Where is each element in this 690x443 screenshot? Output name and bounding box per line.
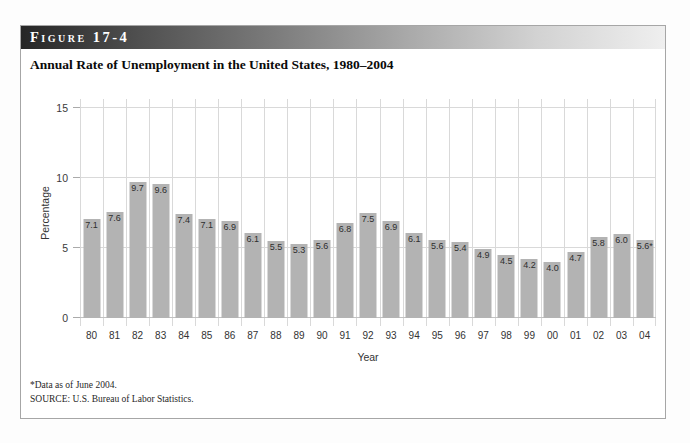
bar-value-label: 6.1 [408,234,421,244]
bar-slot-03: 6.0 [610,108,633,318]
x-tick-label: 80 [80,330,103,341]
x-tick-label: 91 [334,330,357,341]
bar-81: 7.6 [106,212,123,318]
y-tick-label: 10 [32,172,68,184]
bar-03: 6.0 [613,234,630,318]
x-tick-label: 98 [495,330,518,341]
bar-value-label: 5.6 [431,241,444,251]
bar-value-label: 5.3 [293,245,306,255]
x-tick-label: 81 [103,330,126,341]
x-tick-label: 93 [380,330,403,341]
bar-96: 5.4 [452,242,469,318]
figure-header-bar: Figure 17-4 [21,26,665,49]
x-tick-label: 87 [241,330,264,341]
figure-number: Figure 17-4 [30,29,129,46]
bar-value-label: 7.1 [85,220,98,230]
bar-97: 4.9 [475,249,492,318]
x-axis-title: Year [80,351,656,363]
bar-86: 6.9 [221,221,238,318]
y-tick-mark [73,107,80,108]
bar-slot-95: 5.6 [426,108,449,318]
bar-value-label: 5.5 [270,242,283,252]
y-tick-label: 0 [32,312,68,324]
unemployment-bar-chart: Percentage 0510157.17.69.79.67.47.16.96.… [80,108,656,378]
y-tick-label: 5 [32,242,68,254]
bar-01: 4.7 [567,252,584,318]
bar-91: 6.8 [337,223,354,318]
figure-panel: Figure 17-4 Annual Rate of Unemployment … [20,25,666,419]
bar-value-label: 4.7 [569,253,582,263]
bars-row: 7.17.69.79.67.47.16.96.15.55.35.66.87.56… [80,108,656,318]
x-tick-label: 02 [587,330,610,341]
x-tick-label: 96 [449,330,472,341]
x-tick-label: 92 [357,330,380,341]
bar-slot-82: 9.7 [126,108,149,318]
bar-02: 5.8 [590,237,607,318]
bar-94: 6.1 [406,233,423,318]
bar-slot-84: 7.4 [172,108,195,318]
bar-slot-83: 9.6 [149,108,172,318]
bar-value-label: 6.1 [247,234,260,244]
bar-slot-93: 6.9 [380,108,403,318]
x-tick-label: 89 [287,330,310,341]
bar-value-label: 7.1 [200,220,213,230]
bar-slot-94: 6.1 [403,108,426,318]
bar-87: 6.1 [244,233,261,318]
x-tick-label: 04 [633,330,656,341]
x-tick-label: 82 [126,330,149,341]
bar-04: 5.6* [636,240,653,318]
bar-slot-89: 5.3 [287,108,310,318]
plot-area: 0510157.17.69.79.67.47.16.96.15.55.35.66… [80,108,656,318]
bar-83: 9.6 [152,184,169,318]
x-tick-label: 97 [472,330,495,341]
y-axis-title: Percentage [39,108,53,318]
bar-82: 9.7 [129,182,146,318]
bar-value-label: 5.6* [637,241,653,251]
bar-89: 5.3 [290,244,307,318]
bar-value-label: 5.4 [454,243,467,253]
bar-value-label: 5.6 [316,241,329,251]
bar-value-label: 6.9 [224,222,237,232]
x-tick-label: 86 [218,330,241,341]
y-tick-mark [73,177,80,178]
bar-slot-87: 6.1 [241,108,264,318]
bar-00: 4.0 [544,262,561,318]
bar-slot-96: 5.4 [449,108,472,318]
bar-93: 6.9 [383,221,400,318]
bar-value-label: 6.9 [385,222,398,232]
bar-value-label: 4.0 [546,263,559,273]
bar-80: 7.1 [83,219,100,318]
bar-slot-86: 6.9 [218,108,241,318]
bar-85: 7.1 [198,219,215,318]
x-tick-label: 99 [518,330,541,341]
bar-value-label: 6.0 [615,235,628,245]
bar-slot-01: 4.7 [564,108,587,318]
footnote-asterisk: *Data as of June 2004. [30,379,653,393]
bar-slot-80: 7.1 [80,108,103,318]
page: Figure 17-4 Annual Rate of Unemployment … [0,0,690,443]
bar-99: 4.2 [521,259,538,318]
bar-slot-97: 4.9 [472,108,495,318]
bar-90: 5.6 [313,240,330,318]
y-tick-mark [73,317,80,318]
bar-value-label: 9.7 [131,183,144,193]
x-tick-label: 01 [564,330,587,341]
bar-slot-81: 7.6 [103,108,126,318]
bar-value-label: 6.8 [339,224,352,234]
bar-95: 5.6 [429,240,446,318]
bar-value-label: 5.8 [592,238,605,248]
x-tick-label: 00 [541,330,564,341]
bar-92: 7.5 [360,213,377,318]
bar-value-label: 4.2 [523,260,536,270]
bar-slot-90: 5.6 [310,108,333,318]
x-tick-label: 94 [403,330,426,341]
bar-slot-04: 5.6* [633,108,656,318]
bar-value-label: 9.6 [154,185,167,195]
bar-slot-85: 7.1 [195,108,218,318]
bar-value-label: 7.5 [362,214,375,224]
x-tick-label: 03 [610,330,633,341]
figure-footnotes: *Data as of June 2004. SOURCE: U.S. Bure… [30,379,653,406]
y-tick-label: 15 [32,102,68,114]
x-tick-label: 85 [195,330,218,341]
bar-slot-91: 6.8 [334,108,357,318]
